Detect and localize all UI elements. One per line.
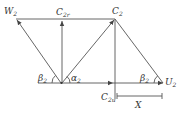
origin-point bbox=[60, 82, 62, 84]
c2-vector bbox=[62, 20, 114, 83]
alpha2-arc bbox=[67, 77, 70, 84]
beta2-left-arc bbox=[52, 76, 56, 84]
label-c2: C2 bbox=[112, 6, 123, 17]
beta2-right-arc bbox=[154, 76, 158, 83]
label-w2: W2 bbox=[4, 6, 17, 17]
label-c2r: C2r bbox=[56, 7, 71, 18]
velocity-triangle-diagram: W2 C2r C2 U2 C2u X β2 α2 β2 bbox=[0, 0, 184, 118]
label-u2: U2 bbox=[165, 77, 177, 88]
label-c2u: C2u bbox=[101, 92, 116, 103]
label-alpha2: α2 bbox=[71, 73, 81, 84]
label-beta2-left: β2 bbox=[37, 73, 47, 84]
label-x: X bbox=[134, 100, 142, 110]
w2-parallel-line bbox=[115, 19, 163, 83]
label-beta2-right: β2 bbox=[139, 73, 149, 84]
